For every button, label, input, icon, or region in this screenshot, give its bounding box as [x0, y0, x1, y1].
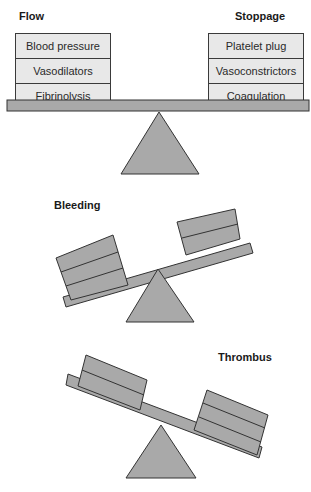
- balanced-beam: [7, 100, 309, 111]
- seesaw-diagrams: [0, 0, 311, 492]
- bleeding-title: Bleeding: [54, 199, 100, 211]
- thrombus-fulcrum: [126, 425, 196, 478]
- balanced-fulcrum: [121, 112, 199, 174]
- thrombus-title: Thrombus: [218, 351, 272, 363]
